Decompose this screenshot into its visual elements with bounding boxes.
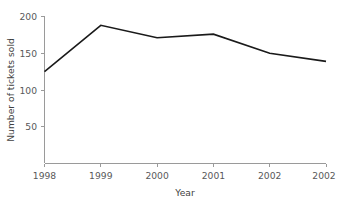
y-tick-label: 100: [19, 85, 37, 96]
x-tick-label: 2001: [202, 170, 225, 181]
line-chart: 200 150 100 50 1998 1999 2000 2001 2002 …: [0, 0, 340, 205]
y-tick-label: 200: [19, 11, 37, 22]
chart-canvas: 200 150 100 50 1998 1999 2000 2001 2002 …: [0, 0, 340, 205]
x-tick-label: 1999: [89, 170, 113, 181]
y-tick-label: 150: [19, 48, 37, 59]
x-tick-label: 1998: [33, 170, 57, 181]
y-axis-title: Number of tickets sold: [5, 38, 16, 142]
x-axis-title: Year: [174, 187, 195, 198]
x-tick-label: 2002: [258, 170, 281, 181]
x-tick-label: 2000: [145, 170, 169, 181]
y-tick-label: 50: [25, 121, 37, 132]
x-tick-label: 2002: [312, 170, 335, 181]
top-edge-artifact: [60, 0, 180, 5]
